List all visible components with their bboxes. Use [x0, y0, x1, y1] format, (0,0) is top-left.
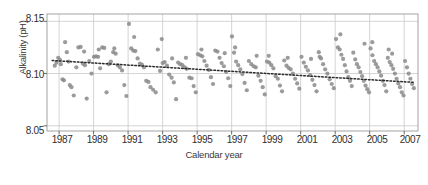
data-point	[393, 71, 397, 75]
data-point	[384, 89, 388, 93]
data-point	[278, 83, 282, 87]
data-point	[353, 57, 357, 61]
chart-figure: Alkalinity (pH) 8.15 8.10 8.05 1987 1989…	[0, 0, 428, 185]
data-point	[98, 66, 102, 70]
data-point	[97, 47, 101, 51]
data-point	[200, 54, 204, 58]
x-tick-label-1993: 1993	[147, 134, 187, 145]
data-point	[370, 40, 374, 44]
data-point	[318, 55, 322, 59]
data-point	[401, 93, 405, 97]
data-point	[209, 75, 213, 79]
data-point	[256, 74, 260, 78]
data-point	[226, 76, 230, 80]
data-point	[408, 77, 412, 81]
data-point	[122, 83, 126, 87]
data-point	[69, 85, 73, 89]
data-point	[289, 67, 293, 71]
data-point	[233, 45, 237, 49]
data-point	[230, 34, 234, 38]
data-point	[83, 63, 87, 67]
x-tick-label-1997: 1997	[217, 134, 257, 145]
data-point	[222, 64, 226, 68]
data-point	[358, 70, 362, 74]
data-point	[114, 52, 118, 56]
data-point	[317, 50, 321, 54]
data-point	[169, 76, 173, 80]
data-point	[282, 58, 286, 62]
data-point	[236, 63, 240, 67]
data-point	[238, 67, 242, 71]
data-point	[259, 79, 263, 83]
data-point	[245, 88, 249, 92]
data-point	[286, 56, 290, 60]
data-point	[109, 59, 113, 63]
data-point	[379, 74, 383, 78]
data-point	[202, 59, 206, 63]
data-point	[310, 78, 314, 82]
data-point	[271, 66, 275, 70]
data-point	[205, 64, 209, 68]
data-point	[146, 80, 150, 84]
data-point	[112, 46, 116, 50]
data-point	[348, 79, 352, 83]
data-point	[63, 40, 67, 44]
data-point	[160, 37, 164, 41]
data-point	[360, 74, 364, 78]
data-point	[276, 77, 280, 81]
data-point	[154, 90, 158, 94]
data-point	[330, 82, 334, 86]
data-point	[343, 63, 347, 67]
data-point	[395, 77, 399, 81]
data-point	[82, 50, 86, 54]
data-point	[386, 56, 390, 60]
data-point	[242, 81, 246, 85]
data-point	[223, 51, 227, 55]
x-tick-label-1995: 1995	[182, 134, 222, 145]
data-point	[357, 65, 361, 69]
data-point	[382, 83, 386, 87]
data-point	[163, 60, 167, 64]
data-point	[124, 94, 128, 98]
data-point	[254, 65, 258, 69]
data-point	[407, 71, 411, 75]
x-tick-label-1991: 1991	[112, 134, 152, 145]
data-point	[89, 71, 93, 75]
data-point	[391, 67, 395, 71]
data-point	[79, 45, 83, 49]
x-tick-label-2003: 2003	[322, 134, 362, 145]
data-point	[194, 90, 198, 94]
data-point	[309, 57, 313, 61]
data-point	[96, 55, 100, 59]
x-tick-label-1999: 1999	[252, 134, 292, 145]
data-point	[184, 56, 188, 60]
data-point	[280, 89, 284, 93]
data-point	[299, 55, 303, 59]
data-point	[387, 47, 391, 51]
data-point	[228, 84, 232, 88]
data-point	[339, 53, 343, 57]
data-point	[120, 68, 124, 72]
data-point	[62, 78, 66, 82]
data-point	[217, 56, 221, 60]
data-point	[321, 62, 325, 66]
data-point	[255, 54, 259, 58]
data-point	[314, 89, 318, 93]
data-point	[332, 86, 336, 90]
x-tick-label-2001: 2001	[287, 134, 327, 145]
data-point	[85, 97, 89, 101]
data-point	[102, 46, 106, 50]
x-tick-label-1989: 1989	[77, 134, 117, 145]
data-point	[334, 37, 338, 41]
x-axis-label: Calendar year	[0, 149, 428, 160]
data-point	[261, 85, 265, 89]
data-point	[172, 80, 176, 84]
data-point	[232, 51, 236, 55]
data-point	[338, 47, 342, 51]
data-point	[133, 49, 137, 53]
data-point	[211, 82, 215, 86]
data-point	[398, 85, 402, 89]
data-point	[323, 67, 327, 71]
data-point	[127, 22, 131, 26]
data-point	[156, 47, 160, 51]
